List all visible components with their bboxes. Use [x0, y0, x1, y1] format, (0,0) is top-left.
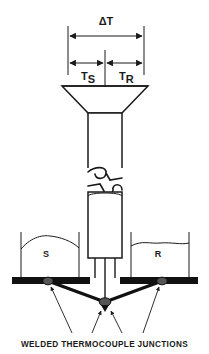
schematic-canvas: ΔT TS TR	[0, 0, 209, 354]
figure-caption: WELDED THERMOCOUPLE JUNCTIONS	[21, 340, 188, 349]
delta-t-label: ΔT	[99, 15, 114, 27]
tr-label-subscript: R	[126, 73, 134, 85]
junction-center-dot	[99, 298, 111, 306]
ts-label-subscript: S	[88, 73, 95, 85]
reference-pan-label: R	[155, 249, 162, 259]
sample-pan-label: S	[43, 249, 49, 259]
junction-right-dot	[157, 277, 167, 285]
break-mask	[86, 168, 124, 194]
lower-tube	[88, 192, 122, 258]
thermocouple-diagram: ΔT TS TR	[0, 0, 209, 354]
junction-left-dot	[43, 277, 53, 285]
upper-tube	[88, 113, 122, 173]
break-symbol	[86, 168, 124, 196]
